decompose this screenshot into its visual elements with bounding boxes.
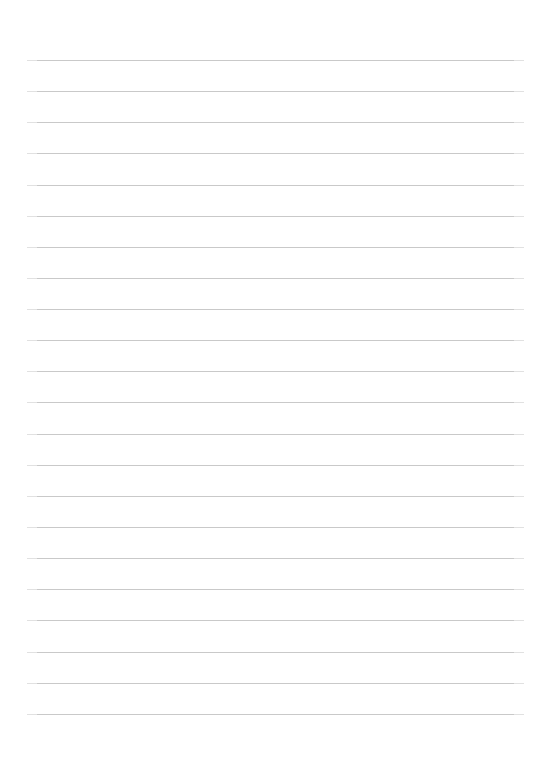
ruled-line [27, 247, 524, 248]
ruled-line [27, 60, 524, 61]
page-text-layer [0, 0, 534, 778]
ruled-line [27, 527, 524, 528]
ruled-line [27, 216, 524, 217]
ruled-line [27, 620, 524, 621]
ruled-line [27, 340, 524, 341]
ruled-line [27, 465, 524, 466]
ruled-line [27, 309, 524, 310]
lined-paper-page [0, 0, 534, 778]
ruled-line [27, 402, 524, 403]
ruled-line [27, 589, 524, 590]
ruled-line [27, 153, 524, 154]
ruled-line [27, 558, 524, 559]
ruled-line [27, 185, 524, 186]
ruled-line [27, 91, 524, 92]
ruled-line [27, 371, 524, 372]
ruled-line [27, 683, 524, 684]
ruled-line [27, 714, 524, 715]
ruled-line [27, 652, 524, 653]
ruled-line [27, 122, 524, 123]
ruled-line [27, 434, 524, 435]
ruled-line [27, 496, 524, 497]
ruled-line [27, 278, 524, 279]
